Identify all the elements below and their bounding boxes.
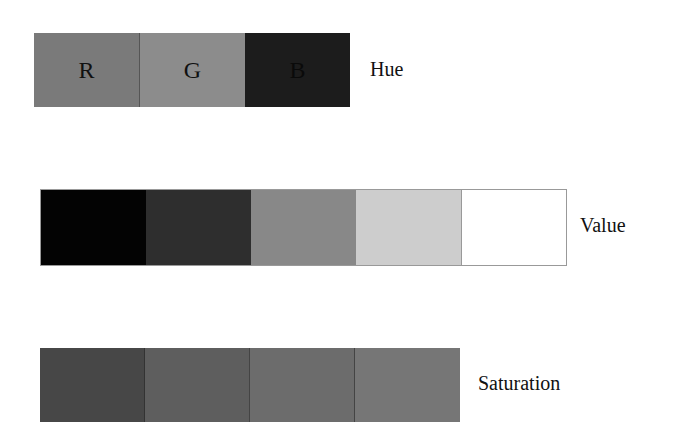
hue-swatch-g: G [140,33,245,107]
saturation-bar [40,348,460,422]
saturation-swatch-1 [40,348,145,422]
value-swatch-4 [356,190,461,265]
saturation-swatch-2 [145,348,250,422]
value-swatch-3 [251,190,356,265]
value-label: Value [580,214,626,237]
value-swatch-1 [41,190,146,265]
saturation-label: Saturation [478,372,560,395]
saturation-swatch-4 [355,348,460,422]
value-swatch-5 [461,190,566,265]
value-bar [40,189,567,266]
hue-bar: R G B [34,33,350,107]
saturation-swatch-3 [250,348,355,422]
hue-swatch-b: B [245,33,350,107]
value-swatch-2 [146,190,251,265]
hue-swatch-r: R [34,33,140,107]
hue-label: Hue [370,58,403,81]
